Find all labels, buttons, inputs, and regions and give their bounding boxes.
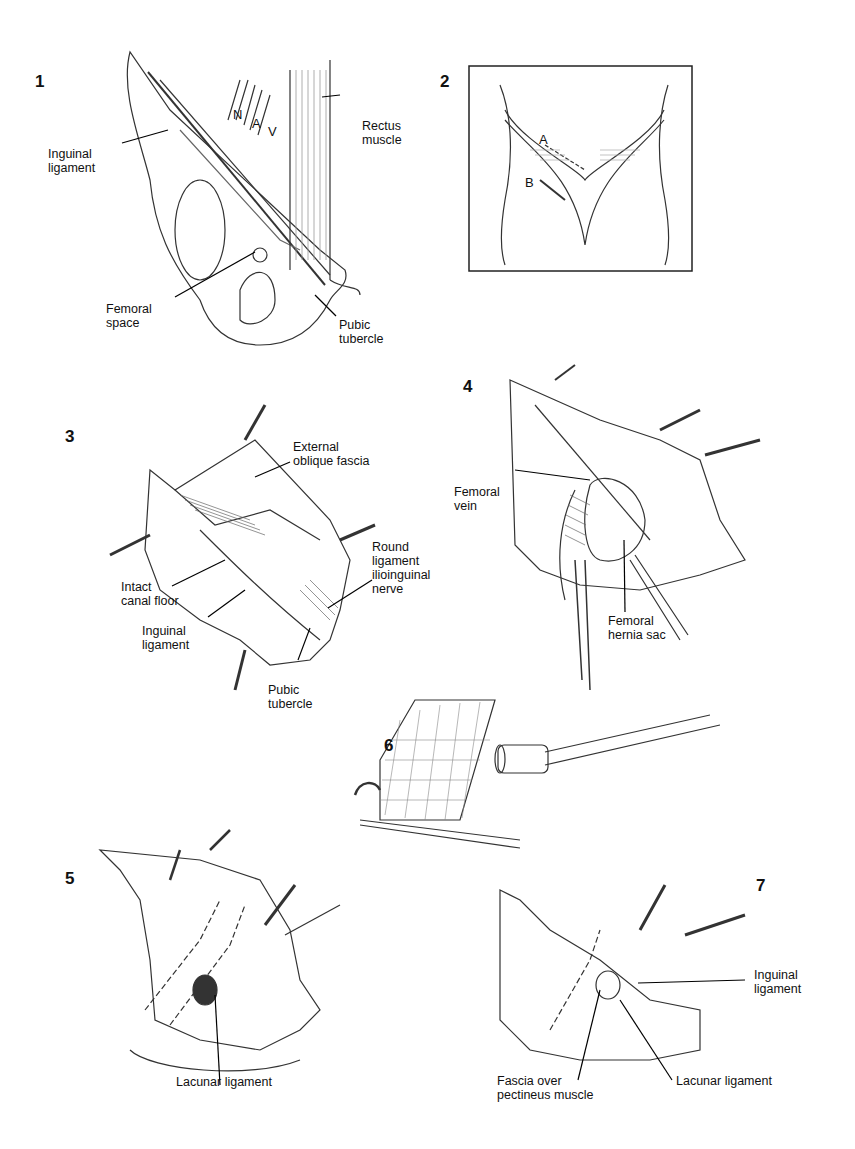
label-inguinal-ligament-3: Inguinal ligament [142, 624, 189, 652]
figure-5-surgical-field-drawing [100, 830, 340, 1085]
label-incision-a: A [539, 133, 548, 147]
figure-3-number: 3 [65, 427, 74, 447]
figure-1-pelvis-drawing [122, 52, 360, 345]
figure-2-number: 2 [440, 72, 449, 92]
figure-1-number: 1 [35, 72, 44, 92]
label-intact-canal-floor: Intact canal floor [121, 580, 179, 608]
label-artery: A [252, 117, 261, 131]
label-inguinal-ligament-7: Inguinal ligament [754, 968, 801, 996]
label-vein: V [268, 125, 277, 139]
label-pubic-tubercle-3: Pubic tubercle [268, 683, 312, 711]
label-femoral-hernia-sac: Femoral hernia sac [608, 614, 666, 642]
label-femoral-vein: Femoral vein [454, 485, 500, 513]
figure-7-surgical-field-drawing [500, 885, 745, 1080]
label-incision-b: B [525, 176, 534, 190]
figure-4-number: 4 [463, 377, 472, 397]
label-lacunar-ligament-5: Lacunar ligament [176, 1075, 272, 1089]
label-external-oblique-fascia: External oblique fascia [293, 440, 369, 468]
label-femoral-space: Femoral space [106, 302, 152, 330]
label-pubic-tubercle-1: Pubic tubercle [339, 318, 383, 346]
label-nerve: N [233, 108, 242, 122]
figure-2-frame [469, 66, 692, 271]
figure-5-number: 5 [65, 869, 74, 889]
figure-6-number: 6 [384, 736, 393, 756]
figure-6-mesh-plug-drawing [355, 700, 720, 848]
label-round-ligament: Round ligament ilioinguinal nerve [372, 540, 430, 596]
label-rectus-muscle: Rectus muscle [362, 119, 402, 147]
figure-7-number: 7 [756, 876, 765, 896]
label-fascia-pectineus: Fascia over pectineus muscle [497, 1074, 594, 1102]
label-inguinal-ligament-1: Inguinal ligament [48, 147, 95, 175]
label-lacunar-ligament-7: Lacunar ligament [676, 1074, 772, 1088]
